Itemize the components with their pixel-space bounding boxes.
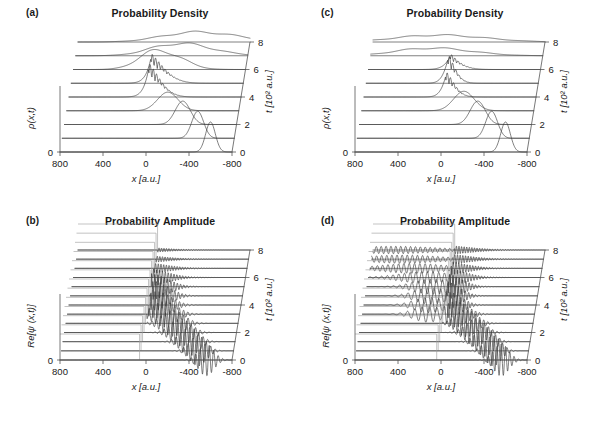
svg-text:400: 400: [95, 366, 111, 377]
svg-text:0: 0: [48, 147, 53, 158]
svg-text:0: 0: [438, 158, 443, 169]
z-axis-label: t [10² a.u.]: [558, 278, 569, 321]
svg-text:-800: -800: [222, 366, 241, 377]
svg-text:400: 400: [390, 366, 406, 377]
svg-text:8: 8: [553, 37, 558, 48]
x-axis-label: x [a.u.]: [426, 381, 456, 392]
svg-text:400: 400: [390, 158, 406, 169]
svg-text:4: 4: [249, 92, 254, 103]
svg-text:800: 800: [347, 158, 363, 169]
panel-b: (b) Probability Amplitude 08004000-400-8…: [0, 208, 294, 421]
svg-text:0: 0: [48, 355, 53, 366]
y-axis-label: ρ(x,t): [25, 107, 36, 130]
svg-text:8: 8: [258, 37, 263, 48]
panel-d: (d) Probability Amplitude 08004000-400-8…: [295, 208, 589, 421]
panel-b-plot: 08004000-400-800x [a.u.]02468t [10² a.u.…: [0, 208, 294, 421]
svg-text:8: 8: [553, 245, 558, 256]
svg-text:-400: -400: [179, 158, 198, 169]
svg-text:4: 4: [544, 300, 549, 311]
y-axis-label: Re[ψ (x,t)]: [320, 304, 331, 348]
svg-text:-800: -800: [517, 158, 536, 169]
y-axis-label: ρ(x,t): [320, 107, 331, 130]
svg-text:0: 0: [535, 355, 540, 366]
svg-text:0: 0: [143, 366, 148, 377]
svg-text:8: 8: [258, 245, 263, 256]
svg-text:0: 0: [343, 355, 348, 366]
x-axis-label: x [a.u.]: [426, 173, 456, 184]
y-axis-label: Re[ψ (x,t)]: [25, 304, 36, 348]
svg-text:6: 6: [549, 64, 554, 75]
svg-text:800: 800: [52, 366, 68, 377]
svg-text:0: 0: [143, 158, 148, 169]
x-axis-label: x [a.u.]: [131, 381, 161, 392]
quantum-wavepacket-figure: (a) Probability Density 08004000-400-800…: [0, 0, 589, 427]
panel-c-plot: 08004000-400-800x [a.u.]02468t [10² a.u.…: [295, 0, 589, 213]
svg-text:6: 6: [254, 64, 259, 75]
svg-text:0: 0: [438, 366, 443, 377]
svg-text:-800: -800: [222, 158, 241, 169]
svg-text:0: 0: [535, 147, 540, 158]
svg-text:2: 2: [540, 327, 545, 338]
svg-text:2: 2: [540, 119, 545, 130]
svg-text:0: 0: [240, 355, 245, 366]
svg-text:800: 800: [52, 158, 68, 169]
svg-text:0: 0: [240, 147, 245, 158]
z-axis-label: t [10² a.u.]: [263, 70, 274, 113]
svg-text:400: 400: [95, 158, 111, 169]
svg-text:2: 2: [245, 327, 250, 338]
svg-text:6: 6: [549, 272, 554, 283]
svg-text:800: 800: [347, 366, 363, 377]
panel-a-plot: 08004000-400-800x [a.u.]02468t [10² a.u.…: [0, 0, 294, 213]
panel-c: (c) Probability Density 08004000-400-800…: [295, 0, 589, 213]
svg-text:4: 4: [249, 300, 254, 311]
panel-d-plot: 08004000-400-800x [a.u.]02468t [10² a.u.…: [295, 208, 589, 421]
svg-text:0: 0: [343, 147, 348, 158]
svg-text:2: 2: [245, 119, 250, 130]
z-axis-label: t [10² a.u.]: [263, 278, 274, 321]
panel-a: (a) Probability Density 08004000-400-800…: [0, 0, 294, 213]
z-axis-label: t [10² a.u.]: [558, 70, 569, 113]
svg-text:4: 4: [544, 92, 549, 103]
svg-text:-400: -400: [179, 366, 198, 377]
svg-text:6: 6: [254, 272, 259, 283]
svg-text:-400: -400: [474, 366, 493, 377]
svg-text:-400: -400: [474, 158, 493, 169]
svg-text:-800: -800: [517, 366, 536, 377]
x-axis-label: x [a.u.]: [131, 173, 161, 184]
